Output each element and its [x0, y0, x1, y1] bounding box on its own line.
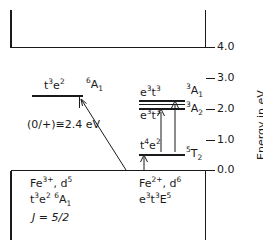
axis-tick-label-3: 3.0	[217, 72, 235, 83]
level-term-3A1: 3A1	[186, 85, 203, 96]
level-term-3A2: 3A2	[186, 103, 203, 114]
axis-tick-label-2: 2.0	[217, 103, 235, 114]
transition-arrow-0plus	[81, 99, 126, 170]
left-caption-species: Fe3+, d5	[30, 178, 72, 189]
level-term-6A1: 6A1	[86, 79, 103, 90]
axis-tick-label-0: 0.0	[217, 164, 235, 175]
level-config-5T2: t4e2	[140, 140, 161, 151]
axis-title: Energy in eV	[255, 90, 263, 160]
right-caption-config: e3t3E5	[139, 194, 171, 205]
level-config-6A1: t3e2	[44, 80, 65, 91]
left-caption-J: J = 5/2	[32, 212, 69, 223]
axis-tick-label-4: 4.0	[217, 41, 235, 52]
level-config-3A2: e3t3	[140, 110, 161, 121]
level-term-5T2: 5T2	[186, 148, 202, 159]
right-caption-species: Fe2+, d6	[139, 178, 181, 189]
transition-label-0plus: (0/+)≅2.4 eV	[27, 119, 100, 130]
energy-level-diagram: 4.0 3.0 2.0 1.0 0.0 Energy in eV t3e2 6A…	[0, 0, 263, 248]
axis-tick-label-1: 1.0	[217, 134, 235, 145]
level-config-3A1: e3t3	[140, 87, 161, 98]
left-caption-config: t3e2 6A1	[30, 194, 71, 205]
